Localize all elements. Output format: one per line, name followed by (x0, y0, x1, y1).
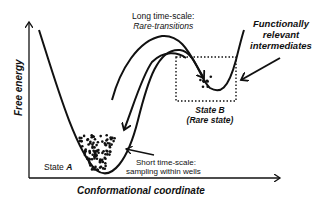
transition-arrow (112, 36, 204, 100)
sample-dot (102, 161, 105, 164)
sample-dot (92, 135, 95, 138)
sample-dot (110, 138, 113, 141)
intermediates-box (176, 57, 236, 101)
sample-dot (104, 165, 107, 168)
sample-dot (81, 145, 84, 148)
sample-dot (97, 141, 100, 144)
sample-dot (210, 75, 213, 78)
short-timescale-arrow (126, 149, 154, 155)
sample-dot (91, 158, 94, 161)
sample-dot (92, 150, 95, 153)
sample-dot (100, 166, 103, 169)
sample-dot (89, 151, 92, 154)
sample-dot (94, 166, 97, 169)
state-b-label: State B (Rare state) (180, 106, 240, 126)
sample-dot (106, 150, 109, 153)
sample-dot (86, 139, 89, 142)
intermediates-arrow (241, 58, 280, 80)
intermediates-line3: intermediates (242, 41, 316, 52)
state-a-prefix: State (44, 162, 66, 172)
sample-dot (93, 146, 96, 149)
sample-dot (104, 162, 107, 165)
sample-dot (206, 80, 209, 83)
x-axis-label: Conformational coordinate (77, 185, 205, 197)
sample-dot (96, 168, 99, 171)
sample-dot (103, 157, 106, 160)
sample-dot (107, 142, 110, 145)
state-a-label: State A (44, 163, 72, 173)
sample-dot (91, 153, 94, 156)
long-timescale-line2: Rare-transitions (132, 22, 194, 32)
sample-dot (92, 166, 95, 169)
state-a-samples (78, 134, 116, 171)
sample-dot (113, 137, 116, 140)
intermediates-label: Functionally relevant intermediates (242, 19, 316, 52)
y-axis-label: Free energy (13, 53, 25, 123)
sample-dot (90, 164, 93, 167)
sample-dot (112, 140, 115, 143)
sample-dot (83, 135, 86, 138)
sample-dot (94, 138, 97, 141)
sample-dot (99, 160, 102, 163)
sample-dot (108, 145, 111, 148)
sample-dot (109, 151, 112, 154)
sample-dot (93, 155, 96, 158)
sample-dot (94, 152, 97, 155)
sample-dot (91, 143, 94, 146)
sample-dot (89, 140, 92, 143)
long-timescale-label: Long time-scale: Rare-transitions (132, 12, 194, 32)
sample-dot (79, 140, 82, 143)
sample-dot (101, 152, 104, 155)
sample-dot (84, 150, 87, 153)
sample-dot (80, 137, 83, 140)
sample-dot (95, 144, 98, 147)
sample-dot (102, 167, 105, 170)
short-timescale-line1: Short time-scale: (126, 158, 201, 167)
sample-dot (105, 134, 108, 137)
sample-dot (108, 153, 111, 156)
sample-dot (104, 142, 107, 145)
short-timescale-label: Short time-scale: sampling within wells (126, 158, 201, 176)
sample-dot (202, 86, 205, 89)
short-timescale-line2: sampling within wells (126, 167, 201, 176)
sample-dot (201, 76, 204, 79)
sample-dot (101, 140, 104, 143)
sample-dot (99, 135, 102, 138)
sample-dot (96, 158, 99, 161)
sample-dot (199, 79, 202, 82)
state-a-name: A (66, 162, 72, 172)
sample-dot (106, 138, 109, 141)
sample-dot (206, 85, 209, 88)
sample-dot (88, 158, 91, 161)
sample-dot (202, 80, 205, 83)
state-b-line2: (Rare state) (180, 116, 240, 126)
